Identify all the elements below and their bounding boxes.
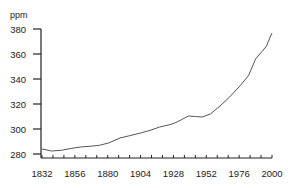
y-tick-label: 280 [10,149,26,160]
x-tick-label: 1952 [196,168,217,179]
y-tick-label: 380 [10,24,26,35]
y-tick-label: 300 [10,124,26,135]
y-tick-label: 340 [10,74,26,85]
y-axis: 280300320340360380 [10,24,41,160]
x-tick-label: 1832 [31,168,52,179]
y-axis-unit-label: ppm [10,10,28,20]
x-tick-label: 2000 [261,168,282,179]
x-tick-label: 1880 [97,168,118,179]
x-tick-label: 1928 [163,168,184,179]
co2-series-line [42,33,272,151]
x-tick-label: 1904 [130,168,151,179]
x-axis: 18321856188019041928195219762000 [31,155,282,179]
x-tick-label: 1976 [229,168,250,179]
y-tick-label: 320 [10,99,26,110]
co2-line-chart: ppm 280300320340360380 18321856188019041… [0,0,288,188]
x-tick-label: 1856 [64,168,85,179]
y-tick-label: 360 [10,49,26,60]
